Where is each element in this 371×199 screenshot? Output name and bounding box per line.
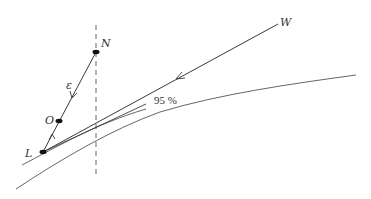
point-L	[40, 150, 47, 154]
point-N	[93, 50, 100, 54]
label-epsilon: ε	[66, 79, 72, 92]
label-O: O	[45, 114, 54, 127]
point-O	[56, 119, 63, 123]
diagram-svg: N W O L ε 95 %	[0, 0, 371, 199]
outer-curve	[16, 75, 356, 189]
label-95-percent: 95 %	[154, 94, 177, 106]
diagram-canvas: N W O L ε 95 %	[0, 0, 371, 199]
line-L-W	[43, 24, 278, 152]
label-N: N	[100, 37, 111, 50]
arrow-lo-icon	[49, 134, 55, 140]
label-W: W	[280, 16, 293, 29]
line-L-tangent	[43, 104, 146, 152]
label-L: L	[24, 147, 32, 160]
inner-curve-95	[22, 109, 146, 165]
